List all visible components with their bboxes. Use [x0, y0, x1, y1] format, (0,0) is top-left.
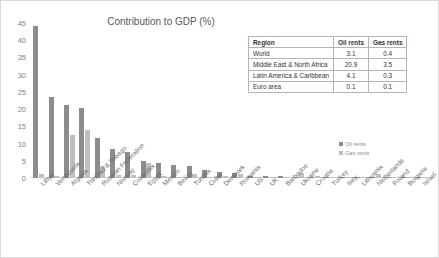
bar-group: [31, 23, 46, 178]
column-header-gas-rents: Gas rents: [368, 37, 406, 48]
y-axis-tick: 5: [22, 156, 26, 165]
y-axis-tick: 15: [18, 122, 26, 131]
table-row: Middle East & North Africa20.93.5: [249, 59, 407, 70]
y-axis-tick: 30: [18, 70, 26, 79]
bar-oil-rents: [263, 176, 268, 178]
y-axis-tick: 0: [22, 174, 26, 183]
bar-group: [215, 23, 230, 178]
chart-figure: Contribution to GDP (%) 0510152025303540…: [0, 0, 439, 258]
cell-oil-rents: 20.9: [334, 59, 369, 70]
legend-swatch-icon: [339, 142, 343, 146]
bar-group: [184, 23, 199, 178]
bar-group: [414, 23, 429, 178]
bar-group: [92, 23, 107, 178]
cell-region: Euro area: [249, 81, 334, 92]
bar-group: [199, 23, 214, 178]
y-axis-tick: 25: [18, 87, 26, 96]
y-axis-tick: 35: [18, 53, 26, 62]
bar-group: [153, 23, 168, 178]
table-row: World3.10.4: [249, 48, 407, 59]
column-header-region: Region: [249, 37, 334, 48]
y-axis: 051015202530354045: [1, 23, 29, 178]
legend-label: Gas rents: [345, 150, 369, 156]
bar-group: [62, 23, 77, 178]
bar-group: [169, 23, 184, 178]
bar-oil-rents: [33, 26, 38, 178]
bar-group: [46, 23, 61, 178]
bar-oil-rents: [278, 176, 283, 178]
cell-region: Latin America & Caribbean: [249, 70, 334, 81]
regional-rents-table: Region Oil rents Gas rents World3.10.4Mi…: [248, 36, 407, 93]
cell-gas-rents: 0.4: [368, 48, 406, 59]
y-axis-tick: 45: [18, 19, 26, 28]
chart-legend: Oil rentsGas rents: [339, 141, 369, 159]
legend-item: Oil rents: [339, 141, 369, 147]
cell-region: Middle East & North Africa: [249, 59, 334, 70]
bar-group: [230, 23, 245, 178]
table-row: Latin America & Caribbean4.10.3: [249, 70, 407, 81]
table-header-row: Region Oil rents Gas rents: [249, 37, 407, 48]
column-header-oil-rents: Oil rents: [334, 37, 369, 48]
cell-region: World: [249, 48, 334, 59]
cell-gas-rents: 3.5: [368, 59, 406, 70]
table-body: World3.10.4Middle East & North Africa20.…: [249, 48, 407, 93]
cell-oil-rents: 0.1: [334, 81, 369, 92]
cell-oil-rents: 4.1: [334, 70, 369, 81]
y-axis-tick: 10: [18, 139, 26, 148]
y-axis-tick: 40: [18, 36, 26, 45]
legend-item: Gas rents: [339, 150, 369, 156]
table-row: Euro area0.10.1: [249, 81, 407, 92]
legend-swatch-icon: [339, 151, 343, 155]
bar-oil-rents: [49, 97, 54, 178]
cell-oil-rents: 3.1: [334, 48, 369, 59]
y-axis-tick: 20: [18, 105, 26, 114]
cell-gas-rents: 0.1: [368, 81, 406, 92]
bar-group: [77, 23, 92, 178]
bar-group: [138, 23, 153, 178]
legend-label: Oil rents: [345, 141, 366, 147]
cell-gas-rents: 0.3: [368, 70, 406, 81]
